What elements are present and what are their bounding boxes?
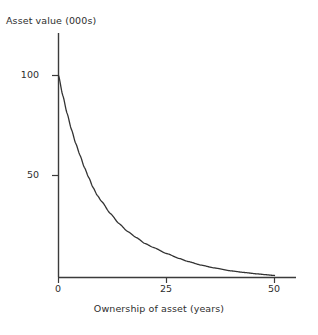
asset-value-curve	[59, 76, 275, 276]
chart-figure: Asset value (000s) Ownership of asset (y…	[0, 0, 318, 335]
chart-plot-area	[0, 0, 318, 335]
